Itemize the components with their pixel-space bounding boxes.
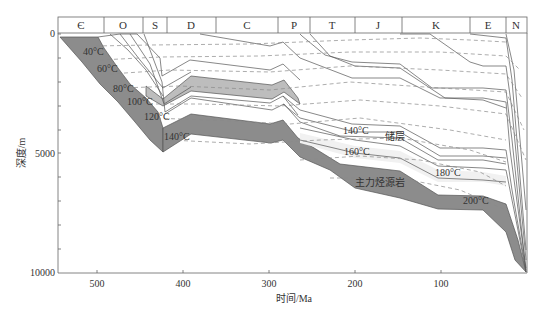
period-carboniferous: C (243, 19, 250, 31)
x-tick-500: 500 (90, 278, 105, 289)
isotherm-label-180: 180°C (435, 167, 461, 178)
x-tick-400: 400 (176, 278, 191, 289)
layer-fills (60, 37, 526, 272)
x-tick-200: 200 (348, 278, 363, 289)
source-rock-label: 主力烃源岩 (355, 176, 405, 188)
y-tick-0: 0 (50, 28, 55, 39)
x-tick-300: 300 (262, 278, 277, 289)
isotherm-label-120: 120°C (144, 111, 170, 122)
burial-history-chart: Є O S D C P T J K E N (0, 0, 542, 314)
period-paleogene: E (485, 19, 492, 31)
y-axis: 0 5000 10000 深度/m (15, 28, 61, 278)
x-tick-100: 100 (434, 278, 449, 289)
x-axis-title: 时间/Ma (276, 292, 313, 304)
reservoir-band-upper (146, 76, 300, 106)
x-axis: 500 400 300 200 100 时间/Ma (90, 270, 449, 304)
period-devonian: D (187, 19, 195, 31)
period-header: Є O S D C P T J K E N (58, 17, 527, 33)
isotherm-label-80: 80°C (113, 83, 134, 94)
isotherm-label-140-left: 140°C (164, 131, 190, 142)
period-jurassic: J (376, 19, 381, 31)
isotherm-label-140-right: 140°C (343, 125, 369, 136)
period-permian: P (291, 19, 297, 31)
isotherm-label-40: 40°C (83, 46, 104, 57)
y-tick-10000: 10000 (30, 267, 55, 278)
period-silurian: S (152, 19, 158, 31)
isotherm-label-60: 60°C (97, 63, 118, 74)
period-ordovician: O (119, 19, 127, 31)
y-axis-title: 深度/m (15, 138, 27, 169)
isotherm-label-200: 200°C (463, 195, 489, 206)
period-cretaceous: K (432, 19, 440, 31)
isotherm-label-100: 100°C (127, 96, 153, 107)
period-triassic: T (329, 19, 336, 31)
reservoir-label: 储层 (385, 130, 405, 142)
y-tick-5000: 5000 (35, 148, 55, 159)
isotherm-label-160: 160°C (344, 146, 370, 157)
period-cambrian: Є (77, 19, 84, 31)
period-neogene: N (512, 19, 520, 31)
plot-frame (58, 33, 527, 273)
